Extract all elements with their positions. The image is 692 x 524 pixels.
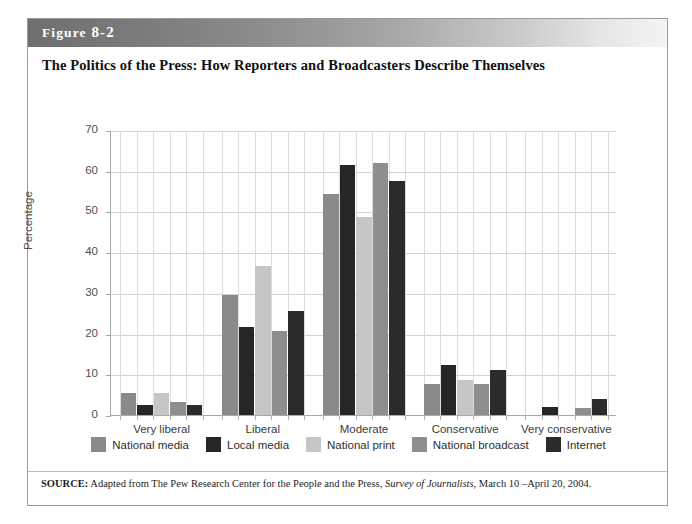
bar-local-media: [137, 405, 153, 415]
x-category-label: Liberal: [212, 423, 313, 435]
bar-national-broadcast: [272, 331, 288, 415]
figure-frame: Figure 8-2 The Politics of the Press: Ho…: [27, 18, 668, 506]
gridline-vertical: [424, 131, 425, 415]
plot-area: Very liberalLiberalModerateConservativeV…: [110, 131, 616, 416]
bar-national-broadcast: [373, 163, 389, 415]
source-italic-title: Survey of Journalists: [385, 478, 474, 489]
bar-national-broadcast: [575, 408, 591, 415]
x-tick-mark: [525, 415, 526, 420]
gridline-vertical: [120, 131, 121, 415]
x-tick-mark: [137, 415, 138, 420]
bar-national-print: [255, 266, 271, 415]
bar-internet: [490, 370, 506, 415]
legend-swatch-icon: [306, 437, 321, 452]
gridline-vertical: [153, 131, 154, 415]
y-tick-label: 20: [38, 327, 98, 339]
gridline-vertical: [473, 131, 474, 415]
y-axis-title: Percentage: [22, 191, 34, 250]
x-tick-mark: [356, 415, 357, 420]
gridline-vertical: [203, 131, 204, 415]
x-tick-mark: [473, 415, 474, 420]
x-tick-mark: [339, 415, 340, 420]
gridline-vertical: [137, 131, 138, 415]
bar-national-media: [121, 393, 137, 415]
x-tick-mark: [323, 415, 324, 420]
x-tick-mark: [222, 415, 223, 420]
bar-group: [516, 131, 617, 415]
y-tick-label: 50: [38, 204, 98, 216]
gridline-vertical: [405, 131, 406, 415]
gridline-vertical: [542, 131, 543, 415]
legend-label: Local media: [227, 439, 289, 451]
legend-item-local-media[interactable]: Local media: [206, 437, 289, 452]
bar-group: [111, 131, 212, 415]
legend-label: National print: [327, 439, 395, 451]
legend-item-national-print[interactable]: National print: [306, 437, 395, 452]
y-tick-label: 70: [38, 123, 98, 135]
chart-container: 010203040506070 Percentage Very liberalL…: [28, 85, 669, 430]
bar-local-media: [441, 365, 457, 415]
source-prefix: SOURCE:: [41, 478, 88, 489]
x-tick-mark: [457, 415, 458, 420]
bar-group: [212, 131, 313, 415]
legend-swatch-icon: [546, 437, 561, 452]
y-tick-label: 0: [38, 408, 98, 420]
y-tick-label: 40: [38, 245, 98, 257]
legend-swatch-icon: [412, 437, 427, 452]
x-tick-mark: [575, 415, 576, 420]
bar-group: [415, 131, 516, 415]
gridline-vertical: [170, 131, 171, 415]
source-text-after: , March 10 –April 20, 2004.: [474, 478, 592, 489]
x-tick-mark: [372, 415, 373, 420]
x-tick-mark: [440, 415, 441, 420]
gridline-vertical: [457, 131, 458, 415]
bar-internet: [592, 399, 608, 415]
legend-label: National media: [112, 439, 189, 451]
figure-header-band: Figure 8-2: [28, 19, 667, 47]
x-tick-mark: [389, 415, 390, 420]
y-axis-tick-labels: 010203040506070: [28, 131, 104, 416]
chart-legend: National mediaLocal mediaNational printN…: [28, 437, 669, 452]
x-category-label: Conservative: [415, 423, 516, 435]
bar-local-media: [239, 327, 255, 415]
x-category-label: Very conservative: [516, 423, 617, 435]
x-tick-mark: [203, 415, 204, 420]
bar-internet: [288, 311, 304, 415]
y-tick-mark: [106, 416, 111, 417]
y-tick-label: 60: [38, 164, 98, 176]
bar-internet: [187, 405, 203, 415]
bar-national-print: [457, 380, 473, 415]
x-tick-mark: [608, 415, 609, 420]
x-tick-mark: [186, 415, 187, 420]
x-tick-mark: [255, 415, 256, 420]
x-tick-mark: [238, 415, 239, 420]
x-tick-mark: [591, 415, 592, 420]
legend-item-national-broadcast[interactable]: National broadcast: [412, 437, 529, 452]
x-tick-mark: [558, 415, 559, 420]
figure-label-prefix: Figure: [42, 25, 87, 40]
y-tick-label: 30: [38, 286, 98, 298]
gridline-vertical: [591, 131, 592, 415]
x-tick-mark: [288, 415, 289, 420]
legend-swatch-icon: [91, 437, 106, 452]
x-tick-mark: [271, 415, 272, 420]
gridline-vertical: [558, 131, 559, 415]
x-tick-mark: [424, 415, 425, 420]
x-category-label: Moderate: [313, 423, 414, 435]
legend-label: National broadcast: [433, 439, 529, 451]
figure-label: Figure 8-2: [42, 24, 115, 41]
bar-internet: [389, 181, 405, 415]
bar-local-media: [340, 165, 356, 415]
bar-national-print: [154, 393, 170, 415]
source-text-before: Adapted from The Pew Research Center for…: [88, 478, 385, 489]
legend-item-internet[interactable]: Internet: [546, 437, 606, 452]
x-tick-mark: [304, 415, 305, 420]
x-tick-mark: [506, 415, 507, 420]
gridline-vertical: [525, 131, 526, 415]
bar-group: [313, 131, 414, 415]
legend-item-national-media[interactable]: National media: [91, 437, 189, 452]
x-tick-mark: [490, 415, 491, 420]
x-tick-mark: [153, 415, 154, 420]
x-tick-mark: [405, 415, 406, 420]
legend-swatch-icon: [206, 437, 221, 452]
